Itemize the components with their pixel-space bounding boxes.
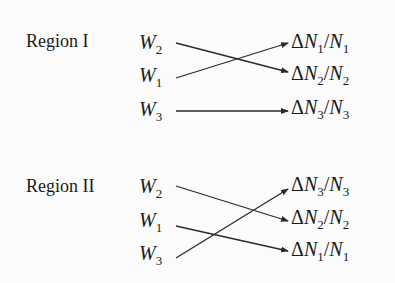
arrow-r1-w2-dn2	[176, 43, 288, 72]
arrow-r2-w2-dn2	[176, 186, 288, 221]
arrow-r1-w1-dn1	[176, 43, 288, 78]
arrow-layer	[0, 0, 395, 283]
